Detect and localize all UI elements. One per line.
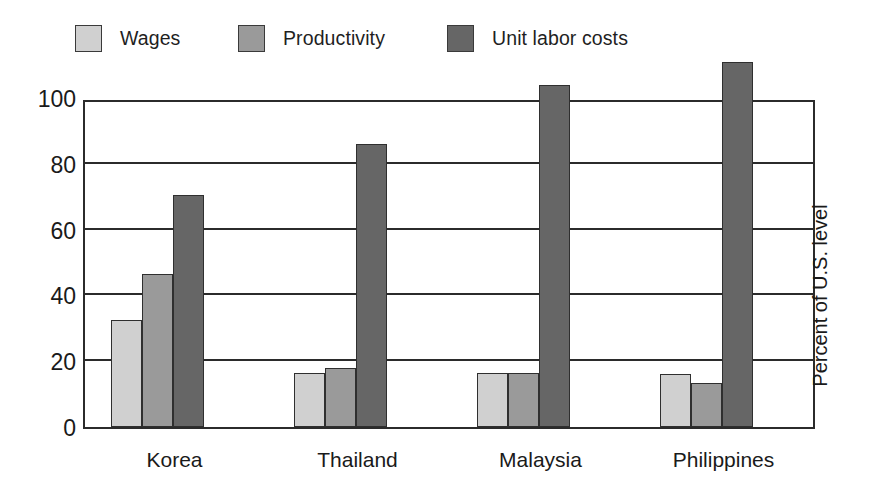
legend-item-wages: Wages — [75, 22, 180, 54]
bar — [173, 195, 204, 427]
bar-chart: Wages Productivity Unit labor costs 0204… — [0, 0, 877, 504]
bar — [508, 373, 539, 427]
x-axis-label-korea: Korea — [83, 448, 266, 472]
legend-label-unit-labor-costs: Unit labor costs — [492, 27, 628, 50]
legend-swatch-unit-labor-costs — [447, 25, 474, 52]
legend-item-productivity: Productivity — [238, 22, 385, 54]
bar — [477, 373, 508, 427]
legend-item-unit-labor-costs: Unit labor costs — [447, 22, 628, 54]
y-tick-label-60: 60 — [14, 220, 76, 243]
bar — [142, 274, 173, 427]
legend-label-wages: Wages — [120, 27, 180, 50]
bar-group — [111, 102, 204, 427]
bar-group — [294, 102, 387, 427]
bar-group — [660, 102, 753, 427]
bars-layer — [85, 102, 813, 427]
bar — [691, 383, 722, 427]
bar — [539, 85, 570, 427]
x-axis-label-malaysia: Malaysia — [449, 448, 632, 472]
legend-label-productivity: Productivity — [283, 27, 385, 50]
legend-swatch-productivity — [238, 25, 265, 52]
plot-area — [83, 100, 815, 429]
bar-group — [477, 102, 570, 427]
y-tick-label-80: 80 — [14, 154, 76, 177]
bar — [294, 373, 325, 427]
chart-legend: Wages Productivity Unit labor costs — [0, 22, 877, 64]
y-axis-title: Percent of U.S. level — [806, 150, 834, 440]
bar — [325, 368, 356, 427]
y-tick-label-40: 40 — [14, 285, 76, 308]
x-axis-label-thailand: Thailand — [266, 448, 449, 472]
bar — [660, 374, 691, 427]
bar — [111, 320, 142, 427]
x-axis-label-philippines: Philippines — [632, 448, 815, 472]
y-tick-label-20: 20 — [14, 351, 76, 374]
y-tick-label-100: 100 — [14, 88, 76, 111]
bar — [722, 62, 753, 427]
y-axis-tick-labels: 020406080100 — [0, 0, 76, 504]
legend-swatch-wages — [75, 25, 102, 52]
y-tick-label-0: 0 — [14, 417, 76, 440]
y-axis-title-text: Percent of U.S. level — [809, 204, 832, 386]
bar — [356, 144, 387, 427]
